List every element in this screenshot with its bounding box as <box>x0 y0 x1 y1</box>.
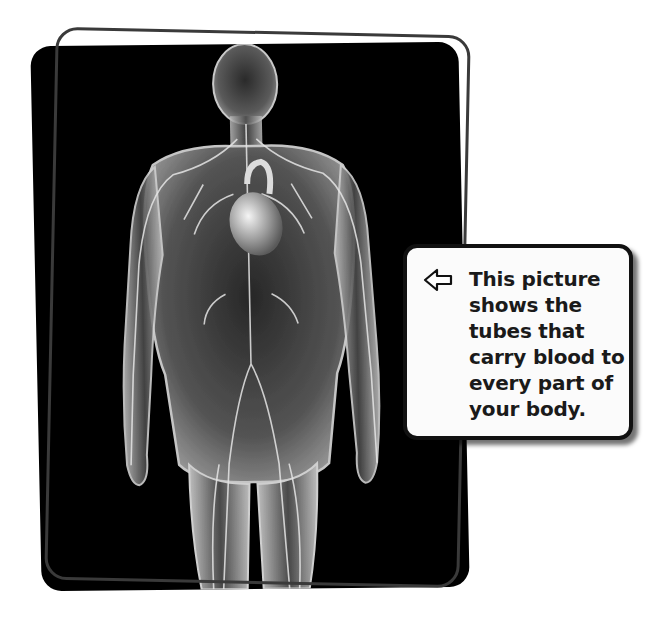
caption-callout: This picture shows the tubes that carry … <box>403 244 633 440</box>
left-arrow-outline-icon <box>423 268 453 292</box>
caption-text: This picture shows the tubes that carry … <box>469 266 631 422</box>
caption-line: This picture <box>469 266 631 292</box>
caption-line: every part of <box>469 370 631 396</box>
caption-line: shows the <box>469 292 631 318</box>
caption-line: tubes that <box>469 318 631 344</box>
caption-line: your body. <box>469 396 631 422</box>
caption-line: carry blood to <box>469 344 631 370</box>
illustration-stage: This picture shows the tubes that carry … <box>0 0 667 621</box>
